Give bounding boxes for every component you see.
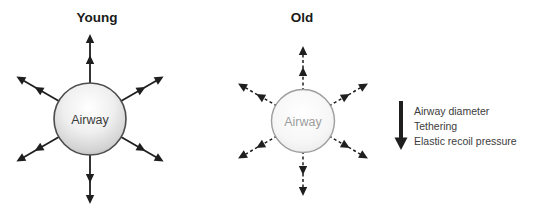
- tethering-arrowhead: [340, 94, 350, 102]
- young-title: Young: [77, 10, 118, 25]
- tethering-arrowhead: [256, 94, 266, 102]
- old-airway-label: Airway: [284, 115, 322, 129]
- legend-item-elastic-recoil: Elastic recoil pressure: [414, 135, 517, 147]
- tethering-arrowhead: [86, 55, 94, 64]
- panel-young: Young Airway: [16, 10, 163, 204]
- tethering-arrowhead: [299, 166, 307, 175]
- tethering-arrowhead: [86, 174, 94, 183]
- tethering-arrowhead: [256, 140, 266, 148]
- tethering-arrowhead: [86, 34, 94, 43]
- young-airway-label: Airway: [71, 113, 109, 127]
- tethering-arrowhead: [299, 187, 307, 196]
- old-title: Old: [291, 10, 314, 25]
- decrease-arrow-icon: [395, 101, 408, 150]
- decrease-arrow-head: [395, 138, 408, 151]
- legend-item-airway-diameter: Airway diameter: [414, 105, 490, 117]
- airway-aging-figure: Young Airway Old Airway Airway diameter …: [0, 0, 533, 212]
- panel-old: Old Airway: [238, 10, 368, 196]
- tethering-arrowhead: [299, 67, 307, 76]
- airway-aging-diagram: Young Airway Old Airway Airway diameter …: [0, 0, 533, 212]
- legend: Airway diameter Tethering Elastic recoil…: [395, 101, 517, 150]
- tethering-arrowhead: [340, 140, 350, 148]
- tethering-arrowhead: [299, 46, 307, 55]
- tethering-arrowhead: [86, 195, 94, 204]
- legend-item-tethering: Tethering: [414, 120, 457, 132]
